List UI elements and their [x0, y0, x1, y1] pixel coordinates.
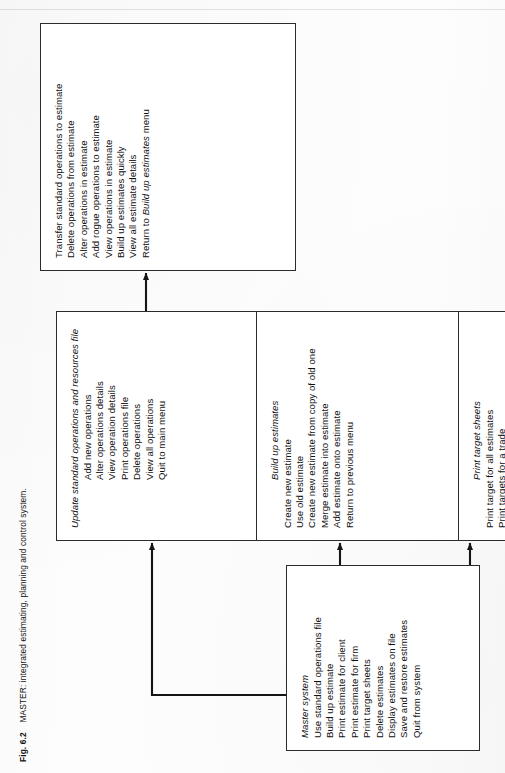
figure-caption: Fig. 6.2 MASTER: integrated estimating, … — [18, 432, 28, 762]
menu-item: Alter operations in estimate — [77, 34, 89, 258]
menu-item: Print target for all estimates — [483, 322, 495, 528]
node-estimate-operations-items: Transfer standard operations to estimate… — [53, 34, 152, 258]
node-master-system-title: Master system — [299, 576, 312, 738]
menu-item: Delete operations from estimate — [65, 34, 77, 258]
menu-item: Build up estimate — [323, 576, 335, 738]
menu-item: Print targets for a trade — [495, 322, 505, 528]
menu-item: Quit to main menu — [155, 322, 167, 480]
menu-item: Print operations file — [118, 322, 130, 480]
connector-master-to-update — [152, 543, 286, 695]
figure-caption-label: Fig. 6.2 — [18, 732, 28, 762]
node-update-standard-operations-title: Update standard operations and resources… — [69, 322, 82, 528]
node-print-target-sheets-items: Print target for all estimates Print tar… — [483, 322, 505, 528]
node-print-target-sheets: Print target sheets Print target for all… — [458, 311, 505, 541]
menu-item: Add estimate onto estimate — [331, 322, 343, 528]
menu-item: View all operations — [143, 322, 155, 480]
menu-item: Use old estimate — [293, 322, 305, 528]
menu-item: Add new operations — [81, 322, 93, 480]
node-print-target-sheets-title: Print target sheets — [471, 322, 484, 480]
menu-item: Create new estimate — [281, 322, 293, 528]
menu-item-return: Return to Build up estimates menu — [139, 34, 151, 258]
node-master-system-items: Use standard operations file Build up es… — [311, 576, 423, 738]
page-gutter-line — [0, 9, 505, 10]
scanned-page: Master system Use standard operations fi… — [0, 0, 505, 773]
menu-item: Print estimate for client — [336, 576, 348, 738]
menu-item: Delete estimates — [373, 576, 385, 738]
menu-item: Return to previous menu — [343, 322, 355, 528]
node-update-standard-operations-items: Add new operations Alter operations deta… — [81, 322, 168, 480]
menu-item: Print estimate for firm — [348, 576, 360, 738]
menu-item: View operation details — [106, 322, 118, 480]
menu-item: Create new estimate from copy of old one — [306, 322, 318, 528]
menu-item: Alter operations details — [93, 322, 105, 480]
menu-item: Merge estimate into estimate — [318, 322, 330, 528]
menu-item: Print target sheets — [361, 576, 373, 738]
node-build-up-estimates-items: Create new estimate Use old estimate Cre… — [281, 322, 355, 528]
menu-item: Add rogue operations to estimate — [90, 34, 102, 258]
menu-item: Transfer standard operations to estimate — [53, 34, 65, 258]
menu-item: Delete operations — [131, 322, 143, 480]
menu-item: Display estimates on file — [385, 576, 397, 738]
node-master-system: Master system Use standard operations fi… — [286, 565, 480, 751]
menu-item: Save and restore estimates — [398, 576, 410, 738]
node-build-up-estimates-title: Build up estimates — [269, 322, 282, 480]
menu-item: Quit from system — [410, 576, 422, 738]
figure-caption-text: MASTER: integrated estimating, planning … — [18, 488, 28, 722]
menu-item: View all estimate details — [127, 34, 139, 258]
node-estimate-operations: Transfer standard operations to estimate… — [40, 23, 296, 271]
menu-item: Build up estimates quickly — [115, 34, 127, 258]
menu-item: Use standard operations file — [311, 576, 323, 738]
italic-menu-name: Build up estimates — [139, 136, 150, 215]
menu-item: View operations in estimate — [102, 34, 114, 258]
figure-diagram: Master system Use standard operations fi… — [18, 17, 488, 757]
